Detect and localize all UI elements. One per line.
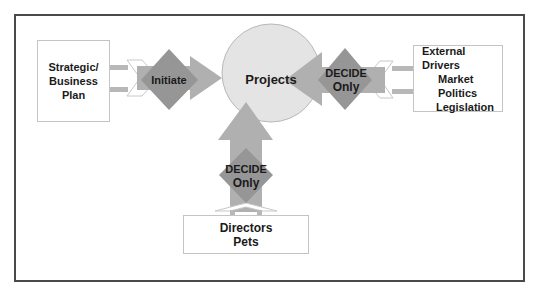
left-connector-bottom (108, 87, 128, 92)
strategic-line-1: Strategic/ (48, 60, 98, 74)
left-connector-top (108, 65, 128, 70)
decide-bottom-label: DECIDE Only (225, 162, 267, 190)
directors-pets-box: Directors Pets (183, 215, 309, 254)
external-politics: Politics (422, 86, 477, 100)
strategic-business-plan-box: Strategic/ Business Plan (37, 40, 110, 122)
directors-line-2: Pets (233, 235, 258, 249)
right-connector-bottom (392, 89, 413, 94)
right-connector-top (392, 66, 413, 71)
decide-right-line-1: DECIDE (325, 66, 367, 80)
external-drivers-box: External Drivers Market Politics Legisla… (413, 45, 503, 112)
initiate-label: Initiate (151, 74, 186, 86)
decide-right-label: DECIDE Only (325, 66, 367, 94)
decide-bottom-line-2: Only (225, 176, 267, 190)
projects-label: Projects (245, 72, 296, 87)
external-legislation: Legislation (422, 100, 494, 114)
decide-right-line-2: Only (325, 80, 367, 94)
strategic-line-2: Business Plan (38, 74, 109, 102)
external-market: Market (422, 72, 473, 86)
external-drivers-heading: External Drivers (422, 44, 502, 72)
diagram-canvas: Strategic/ Business Plan External Driver… (0, 0, 538, 293)
decide-bottom-line-1: DECIDE (225, 162, 267, 176)
directors-line-1: Directors (220, 221, 273, 235)
